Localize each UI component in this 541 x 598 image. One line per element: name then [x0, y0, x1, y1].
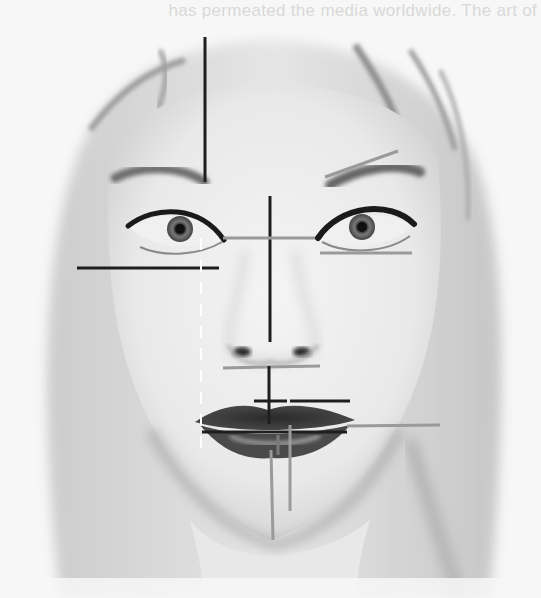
mouth-right-extension-line — [347, 425, 440, 426]
photo-stage: has permeated the media worldwide. The a… — [0, 0, 541, 598]
bottom-fade — [0, 578, 541, 598]
face-photo — [0, 0, 541, 598]
nose-base-horizontal-line — [223, 366, 320, 368]
chin-vertical-line-left — [271, 450, 273, 540]
